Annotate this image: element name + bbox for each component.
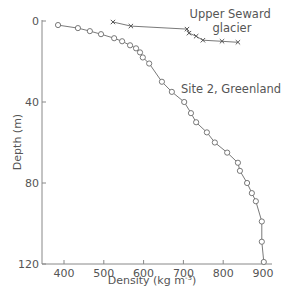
circle-marker [75, 25, 80, 30]
greenland-line [58, 25, 264, 262]
circle-marker [120, 39, 125, 44]
density-depth-chart: 400500600700800900 04080120 Density (kg … [0, 0, 285, 304]
circle-marker [87, 29, 92, 34]
annotation-site-2-greenland: Site 2, Greenland [181, 82, 281, 96]
circle-marker [235, 160, 240, 165]
circle-marker [225, 150, 230, 155]
x-tick-label: 900 [253, 267, 274, 280]
series-site-2-greenland [55, 22, 266, 264]
circle-marker [112, 36, 117, 41]
x-axis-label: Density (kg m-3) [108, 274, 196, 287]
circle-marker [188, 111, 193, 116]
y-tick-label: 0 [32, 15, 39, 28]
y-tick-label: 40 [25, 96, 39, 109]
circle-marker [194, 120, 199, 125]
circle-marker [98, 32, 103, 37]
circle-marker [137, 50, 142, 55]
circle-marker [140, 55, 145, 60]
circle-marker [204, 130, 209, 135]
circle-marker [169, 89, 174, 94]
circle-marker [133, 46, 138, 51]
circle-marker [261, 259, 266, 264]
circle-marker [212, 140, 217, 145]
x-marker [194, 34, 198, 38]
circle-marker [249, 191, 254, 196]
circle-marker [182, 99, 187, 104]
circle-marker [127, 43, 132, 48]
circle-marker [147, 61, 152, 66]
circle-marker [259, 239, 264, 244]
y-tick-label: 80 [25, 177, 39, 190]
x-tick-label: 800 [213, 267, 234, 280]
circle-marker [259, 219, 264, 224]
annotation-upper-seward: Upper Seward glacier [190, 7, 275, 35]
y-axis-label: Depth (m) [11, 114, 24, 170]
x-tick-label: 400 [54, 267, 75, 280]
circle-marker [159, 79, 164, 84]
circle-marker [253, 199, 258, 204]
y-tick-label: 120 [18, 258, 39, 271]
circle-marker [244, 180, 249, 185]
circle-marker [55, 22, 60, 27]
axes [42, 20, 272, 264]
x-marker [187, 31, 191, 35]
circle-marker [237, 168, 242, 173]
